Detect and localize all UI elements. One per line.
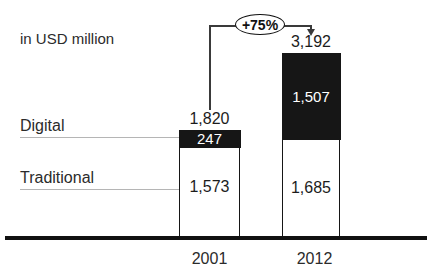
annotation-connector-right	[284, 25, 311, 27]
bar-2001: 247 1,573	[179, 130, 240, 237]
bar-2012-traditional-value: 1,685	[283, 179, 339, 197]
annotation-arrowhead-icon	[307, 29, 315, 36]
series-label-digital: Digital	[20, 117, 64, 135]
growth-annotation-badge: +75%	[235, 14, 285, 35]
bar-2012-digital-segment: 1,507	[282, 53, 341, 140]
bar-2012-digital-value: 1,507	[292, 88, 330, 105]
year-label-2001: 2001	[179, 250, 240, 268]
series-label-traditional: Traditional	[20, 169, 94, 187]
digital-leader-line	[20, 137, 179, 138]
total-label-2001: 1,820	[179, 110, 240, 128]
bar-2001-digital-value: 247	[197, 130, 222, 147]
annotation-connector-left	[209, 25, 236, 27]
bar-2012: 1,507 1,685	[282, 53, 340, 237]
x-axis-baseline	[5, 236, 427, 240]
bar-2001-digital-segment: 247	[179, 130, 241, 148]
traditional-leader-line	[20, 189, 179, 190]
annotation-connector-vertical	[209, 25, 211, 110]
unit-note: in USD million	[20, 30, 114, 47]
stacked-bar-chart: in USD million Digital Traditional 1,820…	[0, 0, 428, 278]
growth-annotation-text: +75%	[242, 17, 278, 33]
bar-2001-traditional-value: 1,573	[180, 178, 239, 196]
year-label-2012: 2012	[284, 250, 345, 268]
